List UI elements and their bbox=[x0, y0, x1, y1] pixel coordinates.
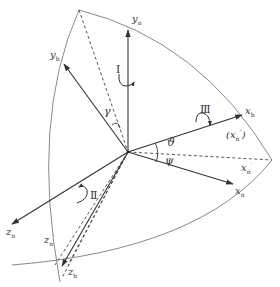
rotation-II-icon bbox=[77, 186, 87, 203]
angle-label-theta: ϑ bbox=[167, 137, 175, 148]
rotation-label-III: Ⅲ bbox=[200, 104, 211, 115]
label-yn-sub: n bbox=[138, 19, 142, 26]
label-yn: yn bbox=[132, 14, 142, 26]
label-xn-double-prime-sub: n bbox=[236, 135, 240, 142]
rotation-label-II: Ⅱ bbox=[90, 190, 97, 201]
rotation-I-icon bbox=[119, 74, 134, 86]
angle-label-psi: ψ bbox=[165, 155, 174, 166]
axes bbox=[12, 30, 242, 266]
dashed-apex-to-origin bbox=[79, 10, 128, 152]
axis-zn bbox=[12, 152, 128, 224]
origin-point bbox=[127, 151, 130, 154]
coordinate-frame-diagram bbox=[0, 0, 280, 287]
rotation-indicators bbox=[77, 74, 210, 203]
label-zn-prime: zn′ bbox=[44, 234, 55, 247]
paren-close: ) bbox=[242, 129, 246, 140]
label-yb-sub: b bbox=[56, 55, 60, 62]
angle-label-gamma: γ bbox=[104, 106, 111, 117]
label-xb-sub: b bbox=[251, 111, 255, 118]
label-zb-sub: b bbox=[73, 272, 77, 279]
angle-arcs bbox=[112, 123, 158, 162]
dashed-origin-to-zn-prime-1 bbox=[55, 152, 128, 265]
label-xn-prime: xn′ bbox=[241, 162, 252, 175]
label-xb: xb bbox=[245, 106, 254, 118]
label-xn-sub: n bbox=[241, 191, 245, 198]
label-zn-prime-sup: ′ bbox=[53, 233, 54, 240]
rotation-label-I: Ⅰ bbox=[116, 64, 120, 75]
axis-zb bbox=[62, 152, 128, 266]
label-zn: zn bbox=[6, 227, 15, 239]
label-xn-prime-sup: ′ bbox=[251, 161, 252, 168]
label-zn-prime-sub: n bbox=[49, 240, 53, 247]
label-xn-prime-sub: n bbox=[247, 168, 251, 175]
label-yb: yb bbox=[50, 50, 60, 62]
axis-xb bbox=[128, 115, 242, 152]
label-zn-sub: n bbox=[11, 232, 15, 239]
angle-theta-psi-arc bbox=[155, 143, 158, 162]
label-zb: zb bbox=[68, 267, 77, 279]
angle-gamma-arc bbox=[112, 123, 120, 128]
auxiliary-dashed-lines bbox=[55, 10, 272, 278]
label-xn-double-prime: (xn″) bbox=[226, 129, 246, 142]
label-xn: xn bbox=[235, 186, 245, 198]
dashed-origin-to-zb bbox=[62, 152, 128, 278]
